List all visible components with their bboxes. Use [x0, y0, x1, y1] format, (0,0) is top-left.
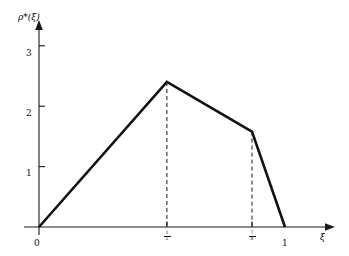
y-tick-label-2-box: 2 [26, 101, 32, 120]
x-tick-label-one-box: 1 [282, 231, 288, 250]
y-tick-label-3-box: 3 [26, 41, 32, 60]
x-tick-label-origin: 0 [34, 238, 40, 248]
fraction-half: 1 2 [157, 231, 177, 242]
fraction-half-numerator: 1 [157, 231, 177, 236]
chart-figure: ρ*(ξ) ξ 3 2 1 0 1 2 7 8 1 [0, 0, 349, 256]
fraction-seven-eighths-denominator: 8 [242, 237, 262, 242]
fraction-seven-eighths: 7 8 [242, 231, 262, 242]
x-tick-marks [167, 222, 252, 228]
y-axis-title-text: ρ*(ξ) [18, 12, 40, 22]
x-axis [24, 223, 335, 230]
y-tick-label-1: 1 [26, 168, 32, 178]
fraction-half-denominator: 2 [157, 237, 177, 242]
x-tick-label-half: 1 2 [157, 231, 177, 242]
y-tick-label-3: 3 [26, 48, 32, 58]
fraction-seven-eighths-numerator: 7 [242, 231, 262, 236]
annotation-dashed-lines [167, 82, 252, 226]
x-axis-arrow-icon [325, 223, 335, 230]
y-axis [35, 20, 43, 235]
x-tick-label-seven-eighths: 7 8 [242, 231, 262, 242]
density-curve [39, 82, 285, 227]
y-tick-label-1-box: 1 [26, 161, 32, 180]
x-axis-title-text: ξ [320, 232, 325, 242]
y-tick-marks [39, 46, 45, 167]
x-tick-label-origin-box: 0 [34, 231, 40, 250]
x-tick-label-one: 1 [282, 238, 288, 248]
x-axis-title: ξ [320, 232, 325, 242]
chart-svg [0, 0, 349, 256]
y-tick-label-2: 2 [26, 108, 32, 118]
y-axis-title: ρ*(ξ) [18, 12, 40, 22]
